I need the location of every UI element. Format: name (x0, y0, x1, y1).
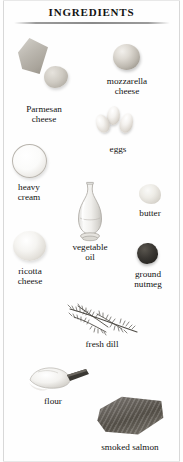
title-divider-rule (14, 22, 170, 24)
page-border-top (3, 0, 180, 1)
page-border-right (179, 0, 180, 462)
ingredient-label-ricotta-cheese: ricotta cheese (1, 266, 59, 287)
flour-scoop-icon (26, 364, 92, 394)
page-title: Ingredients (0, 2, 183, 19)
ingredient-label-smoked-salmon: smoked salmon (82, 442, 178, 452)
butter-lump-icon (139, 184, 161, 204)
ingredient-label-flour: flour (30, 396, 76, 406)
ingredient-label-mozzarella-cheese: mozzarella cheese (89, 76, 165, 97)
cream-bowl-icon (12, 144, 47, 178)
page-border-left (3, 0, 4, 462)
ricotta-icon (13, 231, 46, 261)
oil-carafe-icon (72, 180, 108, 244)
nutmeg-icon (137, 243, 158, 264)
dill-sprig-icon (64, 303, 140, 337)
parmesan-crumb-icon (44, 66, 68, 88)
eggs-icon (96, 106, 142, 140)
ingredient-label-butter: butter (127, 208, 173, 218)
ingredient-label-parmesan-cheese: Parmesan cheese (6, 104, 82, 125)
ingredient-label-heavy-cream: heavy cream (0, 182, 59, 203)
ingredients-page: Ingredients Parmesan cheese mozzarella c… (0, 0, 183, 462)
ingredient-label-eggs: eggs (88, 144, 148, 154)
ingredient-label-ground-nutmeg: ground nutmeg (120, 269, 176, 290)
salmon-fillet-icon (96, 394, 164, 438)
mozzarella-ball-icon (113, 44, 140, 70)
ingredient-label-fresh-dill: fresh dill (61, 339, 143, 349)
ingredient-label-vegetable-oil: vegetable oil (58, 242, 122, 263)
